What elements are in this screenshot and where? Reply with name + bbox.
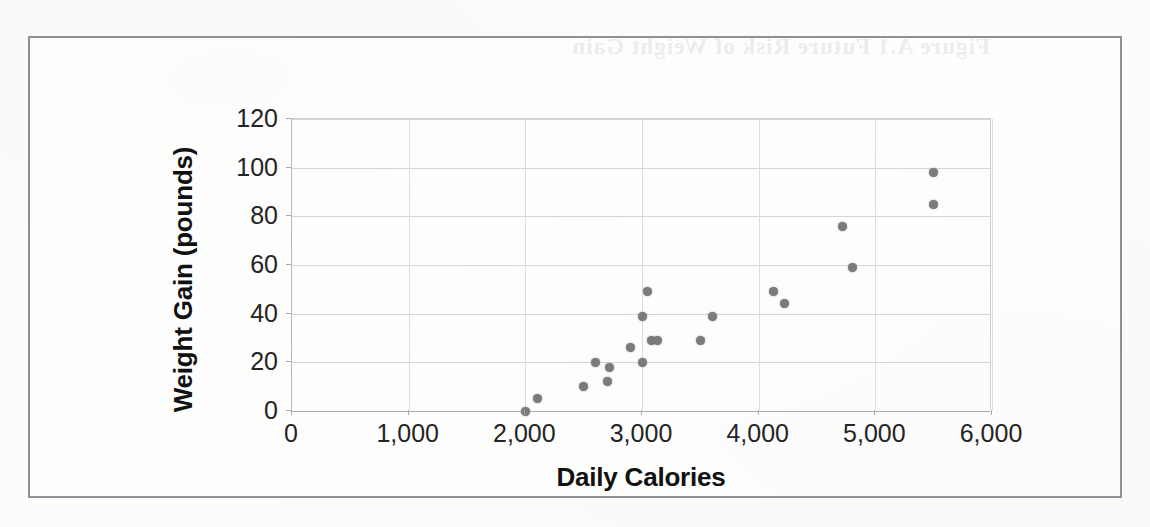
tick-y-120 [286,118,291,119]
data-point [929,168,938,177]
x-tick-label-0: 0 [284,419,298,448]
y-axis-title: Weight Gain (pounds) [168,115,199,445]
x-tick-label-6000: 6,000 [960,419,1023,448]
data-point [533,394,542,403]
gridline-x-1000 [409,119,410,410]
x-tick-label-3000: 3,000 [610,419,673,448]
data-point [591,358,600,367]
x-tick-label-2000: 2,000 [493,419,556,448]
tick-x-6000 [991,410,992,415]
gridline-y-120 [292,119,990,120]
data-point [626,343,635,352]
data-point [769,287,778,296]
x-tick-label-5000: 5,000 [843,419,906,448]
x-tick-label-4000: 4,000 [726,419,789,448]
data-point [638,312,647,321]
tick-x-4000 [758,410,759,415]
gridline-x-2000 [525,119,526,410]
gridline-x-4000 [759,119,760,410]
tick-y-60 [286,264,291,265]
tick-y-0 [286,410,291,411]
data-point [848,263,857,272]
data-point [579,382,588,391]
gridline-x-6000 [992,119,993,410]
y-axis-tick-labels: 020406080100120 [216,118,278,410]
y-tick-label-0: 0 [264,396,278,425]
data-point [838,222,847,231]
y-tick-label-20: 20 [250,347,278,376]
tick-y-80 [286,215,291,216]
data-point [708,312,717,321]
data-point [780,299,789,308]
gridline-x-5000 [875,119,876,410]
data-point [603,377,612,386]
figure-frame: 020406080100120 01,0002,0003,0004,0005,0… [28,36,1122,498]
scatter-chart: 020406080100120 01,0002,0003,0004,0005,0… [30,38,1120,496]
data-point [638,358,647,367]
y-tick-label-60: 60 [250,250,278,279]
y-tick-label-120: 120 [236,104,278,133]
y-tick-label-80: 80 [250,201,278,230]
y-tick-label-100: 100 [236,152,278,181]
x-axis-tick-labels: 01,0002,0003,0004,0005,0006,000 [291,419,991,453]
data-point [929,200,938,209]
gridline-y-80 [292,216,990,217]
tick-x-2000 [524,410,525,415]
x-tick-label-1000: 1,000 [376,419,439,448]
gridline-y-60 [292,265,990,266]
tick-x-5000 [874,410,875,415]
y-tick-label-40: 40 [250,298,278,327]
x-axis-title: Daily Calories [291,462,991,493]
data-point [605,363,614,372]
data-point [653,336,662,345]
tick-x-1000 [408,410,409,415]
data-point [696,336,705,345]
data-point [643,287,652,296]
plot-area [291,118,991,410]
tick-x-0 [291,410,292,415]
data-point [521,407,530,416]
tick-y-20 [286,361,291,362]
tick-y-100 [286,167,291,168]
gridline-y-100 [292,168,990,169]
tick-x-3000 [641,410,642,415]
tick-y-40 [286,313,291,314]
